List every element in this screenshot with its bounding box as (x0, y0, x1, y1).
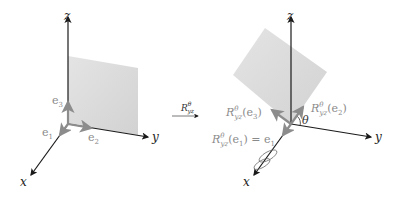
theta-label: θ (302, 114, 309, 127)
left-panel: z y x e3 e2 e1 (20, 9, 159, 189)
transform-arrow: Rθyz (172, 100, 198, 116)
rotated-e2-label: Rθyz(e2) (310, 101, 347, 117)
e1-vector (283, 124, 291, 135)
e2-label: e2 (88, 131, 99, 146)
transform-label: Rθyz (180, 100, 195, 115)
z-axis-label: z (63, 9, 71, 23)
rotated-e1-label: Rθyz(e1) = e1 (211, 132, 275, 148)
y-axis-label: y (374, 130, 382, 144)
y-axis-label: y (151, 130, 159, 144)
right-panel: z y x θ Rθyz(e2) Rθyz(e3) Rθyz(e1) = e1 (211, 9, 382, 189)
rotated-e3-label: Rθyz(e3) (225, 105, 262, 121)
z-axis-label: z (286, 9, 294, 23)
x-axis-label: x (20, 175, 27, 189)
x-axis-label: x (243, 175, 250, 189)
rotation-diagram: z y x e3 e2 e1 Rθyz z y x θ Rθyz(e2) Rθy… (0, 0, 396, 198)
e3-label: e3 (52, 94, 63, 109)
e1-vector (60, 124, 68, 135)
e1-label: e1 (42, 126, 53, 141)
yz-plane (68, 56, 138, 135)
